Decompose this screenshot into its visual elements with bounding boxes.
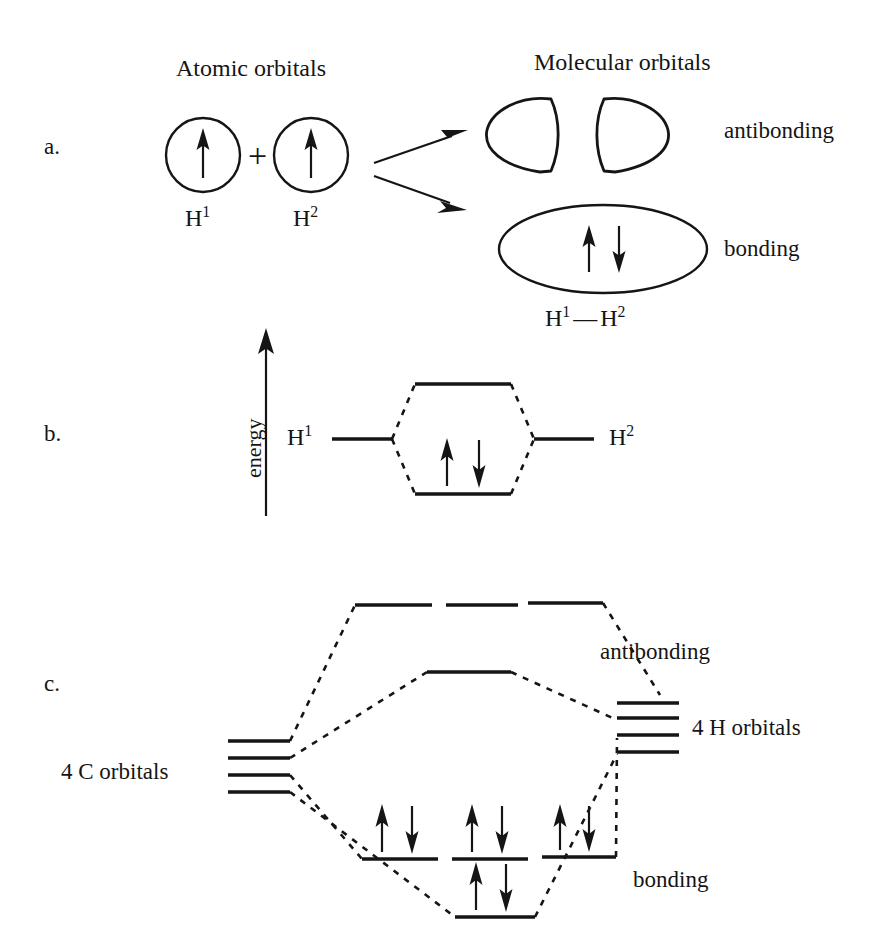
panel-b-energy-axis-label: energy [243,419,265,478]
panel-c-electron-pair-2 [466,804,509,854]
panel-a-bonding-label: bonding [724,237,799,260]
h2-sup: 2 [310,203,318,220]
panel-b-h1-sup: 1 [304,422,312,439]
panel-c-bonding-label: bonding [633,868,708,891]
reaction-arrow-antibonding [374,130,468,163]
panel-c-left-label: 4 C orbitals [61,760,168,783]
antibonding-lobe-right [597,98,669,172]
panel-c-corr-bond4-h4 [535,754,617,917]
molecular-orbital-figure: a. Atomic orbitals Molecular orbitals [0,0,885,944]
panel-c-right-label: 4 H orbitals [692,716,801,739]
panel-c-graphics [0,560,885,944]
antibonding-lobe-left [486,98,558,172]
panel-c-corr-bond3-h3 [616,738,617,857]
electron-arrow-up-h2 [305,128,318,178]
panel-c-electron-pair-4 [470,862,513,912]
panel-b-graphics [0,320,885,550]
panel-a-antibonding-label: antibonding [724,119,834,142]
panel-c-corr-anti4-h2 [511,672,617,720]
bonding-orbital-ellipse [499,205,707,293]
mol-right-sup: 2 [618,303,626,320]
panel-c-corr-c4-bond4 [290,792,455,917]
electron-arrow-up-h1 [197,128,210,178]
h2-base: H [293,205,310,231]
h1-base: H [185,205,202,231]
panel-c-corr-c1-anti1 [290,605,355,741]
panel-b-corr-bond-h2 [511,439,534,494]
panel-b-corr-anti-h2 [511,384,534,439]
h1-sup: 1 [202,203,210,220]
panel-b-corr-h1-anti [392,384,415,439]
panel-b-label-h1: H1 [287,425,312,449]
panel-b-corr-h1-bond [392,439,415,494]
panel-c-antibonding-label: antibonding [600,640,710,663]
electron-pair-bonding-a [583,225,626,273]
panel-c-corr-c3-bond1 [290,775,362,859]
panel-a-graphics [0,0,885,340]
atomic-orbital-label-h2: H2 [293,206,318,230]
panel-c-electron-pair-3 [554,804,596,852]
panel-c-corr-c2-anti4 [290,672,427,758]
panel-b-h1-base: H [287,424,304,450]
plus-operator: + [248,139,267,173]
panel-b-h2-sup: 2 [626,422,634,439]
reaction-arrow-bonding [374,176,467,213]
panel-b-electron-pair-bonding [441,438,486,488]
atomic-orbital-label-h1: H1 [185,206,210,230]
panel-b-h2-base: H [609,424,626,450]
panel-b-label-h2: H2 [609,425,634,449]
panel-c-electron-pair-1 [376,804,419,854]
